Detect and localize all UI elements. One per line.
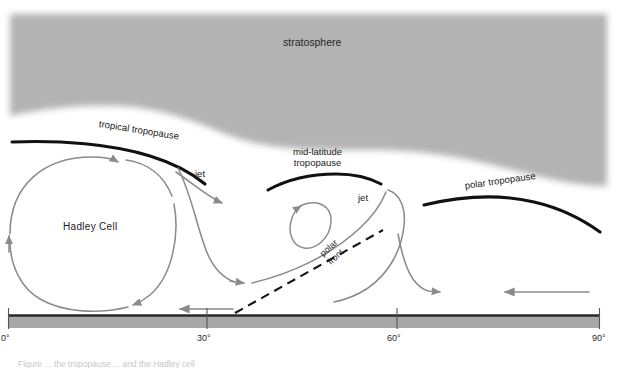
label-mid-latitude-tropopause-line2: tropopause [294, 157, 342, 168]
label-mid-latitude-tropopause: mid-latitude tropopause [293, 146, 342, 168]
hadley-surface-branch [10, 244, 128, 311]
polar-cell-rising-limb [334, 190, 404, 302]
label-stratosphere: stratosphere [283, 36, 341, 48]
axis-tick-label-90: 90° [592, 333, 606, 343]
circulation-diagram [0, 0, 617, 371]
label-hadley-cell: Hadley Cell [63, 221, 117, 233]
figure-container: stratosphere tropical tropopause jet mid… [0, 0, 617, 371]
axis-tick-label-60: 60° [387, 333, 401, 343]
hadley-upper-branch-2 [126, 160, 172, 196]
polar-front-dashed-line [235, 230, 383, 313]
figure-caption: Figure ... the tropopause ... and the Ha… [18, 359, 195, 368]
surface-flow-arrows [180, 292, 589, 309]
polar-front [235, 230, 383, 313]
polar-cell [334, 190, 440, 302]
ferrel-surface-arrow [230, 281, 244, 283]
axis-tick-label-0: 0° [1, 333, 10, 343]
label-jet-subtropical: jet [195, 168, 205, 179]
label-mid-latitude-tropopause-line1: mid-latitude [293, 146, 342, 157]
tropical-tropopause-line [12, 142, 205, 184]
hadley-cell [9, 157, 176, 311]
mid-latitude-tropopause-line [268, 174, 381, 190]
ground-strip [8, 316, 600, 328]
mid-level-eddy [290, 203, 331, 248]
polar-cell-surface-turn [398, 234, 440, 292]
axis-tick-label-30: 30° [197, 333, 211, 343]
polar-tropopause-line [424, 197, 600, 232]
ferrel-poleward-branch [252, 192, 386, 283]
eddy-loop [290, 203, 331, 248]
ferrel-cell [178, 168, 386, 283]
hadley-descending-limb [133, 204, 176, 305]
label-jet-polar-front: jet [358, 192, 368, 203]
